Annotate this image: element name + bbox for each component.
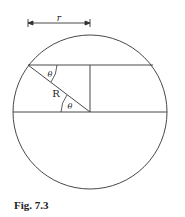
figure-caption: Fig. 7.3 <box>14 199 49 211</box>
diagram: r θ R θ <box>0 0 185 217</box>
theta-top-label: θ <box>48 70 53 79</box>
R-label: R <box>52 88 60 99</box>
r-label: r <box>57 13 62 23</box>
theta-bottom-label: θ <box>68 102 73 111</box>
angle-arc-bottom <box>61 95 67 112</box>
